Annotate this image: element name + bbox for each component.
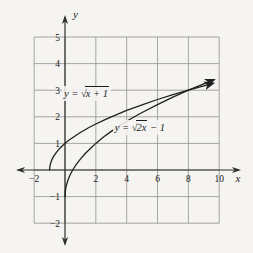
label-suffix: − 1 [147, 122, 165, 133]
x-tick-label: 4 [124, 174, 129, 184]
y-tick-label: 3 [55, 86, 60, 96]
y-tick-label: 1 [55, 139, 60, 149]
label-radicand: x + 1 [85, 86, 109, 101]
x-tick-label: 10 [214, 174, 224, 184]
y-tick-label: −2 [50, 219, 60, 229]
y-tick-label: −1 [50, 192, 60, 202]
label-radicand: 2x [136, 120, 148, 135]
x-axis-label: x [235, 172, 241, 184]
tick-labels: −224681054321−1−2xy [29, 8, 240, 229]
label-prefix: y = [64, 88, 81, 99]
y-axis-label: y [72, 8, 78, 20]
x-tick-label: 6 [155, 174, 160, 184]
label-prefix: y = [115, 122, 132, 133]
x-tick-label: 2 [93, 174, 98, 184]
x-tick-label: −2 [29, 174, 39, 184]
x-tick-label: 8 [186, 174, 191, 184]
y-tick-label: 4 [55, 59, 60, 69]
y-tick-label: 2 [55, 112, 60, 122]
y-tick-label: 5 [55, 33, 60, 43]
curve-label-sqrt-x-plus-1: y = √x + 1 [62, 86, 111, 101]
curve-label-sqrt-2x-minus-1: y = √2x − 1 [113, 120, 167, 135]
function-graph-figure: −224681054321−1−2xy y = √x + 1 y = √2x −… [0, 0, 253, 253]
